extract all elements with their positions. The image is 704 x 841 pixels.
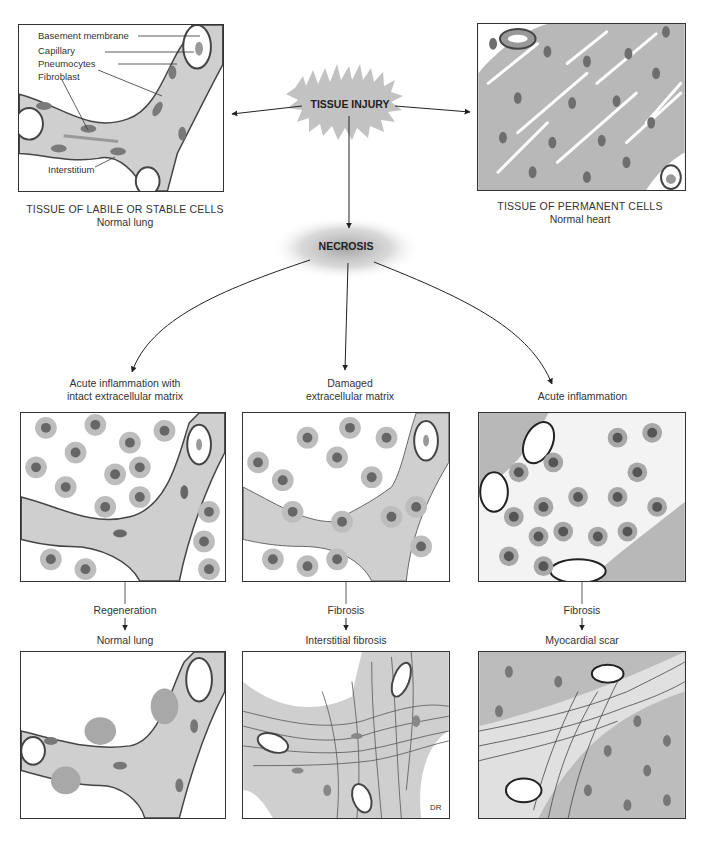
- col2-title-line1: Damaged: [240, 377, 460, 390]
- artist-signature: DR: [430, 803, 442, 812]
- caption-permanent: TISSUE OF PERMANENT CELLS Normal heart: [455, 200, 704, 226]
- fibrosis-lung-illustration: [243, 652, 449, 818]
- caption-normal-heart: Normal heart: [455, 213, 704, 226]
- intact-matrix-illustration: [21, 413, 225, 581]
- heart-illustration: [478, 24, 685, 190]
- label-basement-membrane: Basement membrane: [38, 30, 129, 41]
- label-pneumocytes: Pneumocytes: [38, 58, 96, 69]
- col3-outcome: Myocardial scar: [482, 634, 682, 646]
- col1-title-line2: intact extracellular matrix: [20, 390, 230, 403]
- damaged-matrix-illustration: [243, 413, 449, 581]
- caption-labile-stable-title: TISSUE OF LABILE OR STABLE CELLS: [0, 203, 250, 216]
- panel-normal-heart-top: [477, 23, 686, 191]
- caption-permanent-title: TISSUE OF PERMANENT CELLS: [455, 200, 704, 213]
- col1-process: Regeneration: [25, 604, 225, 616]
- heart-inflammation-illustration: [479, 413, 685, 581]
- label-capillary: Capillary: [38, 45, 75, 56]
- caption-labile-stable: TISSUE OF LABILE OR STABLE CELLS Normal …: [0, 203, 250, 229]
- col2-outcome: Interstitial fibrosis: [246, 634, 446, 646]
- panel-acute-inflammation-intact: [20, 412, 226, 582]
- caption-normal-lung: Normal lung: [0, 216, 250, 229]
- col1-outcome: Normal lung: [25, 634, 225, 646]
- col3-title: Acute inflammation: [475, 390, 690, 403]
- col1-title: Acute inflammation with intact extracell…: [20, 377, 230, 403]
- label-fibroblast: Fibroblast: [38, 71, 80, 82]
- panel-acute-inflammation-heart: [478, 412, 686, 582]
- regenerated-lung-illustration: [21, 652, 225, 818]
- col3-process: Fibrosis: [482, 604, 682, 616]
- necrosis-label: NECROSIS: [296, 240, 396, 252]
- col2-title: Damaged extracellular matrix: [240, 377, 460, 403]
- col1-title-line1: Acute inflammation with: [20, 377, 230, 390]
- panel-normal-lung-regenerated: [20, 651, 226, 819]
- panel-myocardial-scar: [478, 651, 686, 819]
- panel-damaged-matrix: [242, 412, 450, 582]
- tissue-injury-label: TISSUE INJURY: [295, 98, 405, 110]
- col3-title-line2: Acute inflammation: [475, 390, 690, 403]
- col2-title-line2: extracellular matrix: [240, 390, 460, 403]
- col2-process: Fibrosis: [246, 604, 446, 616]
- myocardial-scar-illustration: [479, 652, 685, 818]
- label-interstitium: Interstitium: [48, 164, 94, 175]
- panel-interstitial-fibrosis: [242, 651, 450, 819]
